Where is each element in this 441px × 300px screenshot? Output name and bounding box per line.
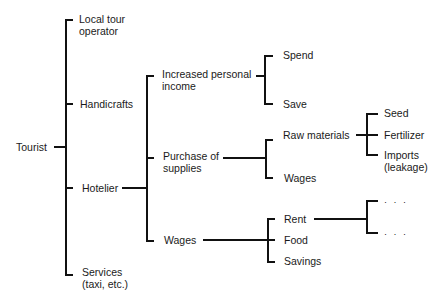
label-line: Increased personal <box>162 68 251 80</box>
label-line: Purchase of <box>163 150 219 162</box>
node-increased-personal-income: Increased personal income <box>162 68 251 92</box>
label-line: Imports <box>384 149 428 161</box>
label-line: income <box>162 80 251 92</box>
node-services: Services (taxi, etc.) <box>82 266 128 290</box>
node-wages-supplies: Wages <box>284 172 316 184</box>
node-raw-materials: Raw materials <box>283 129 350 141</box>
node-wages-hotel: Wages <box>164 234 196 246</box>
node-handicrafts: Handicrafts <box>80 98 133 110</box>
node-hotelier: Hotelier <box>82 182 118 194</box>
node-save: Save <box>283 98 307 110</box>
label-line: operator <box>79 25 125 37</box>
node-tourist: Tourist <box>16 141 47 153</box>
node-imports-leakage: Imports (leakage) <box>384 149 428 173</box>
node-fertilizer: Fertilizer <box>384 129 424 141</box>
node-purchase-of-supplies: Purchase of supplies <box>163 150 219 174</box>
label-line: Services <box>82 266 128 278</box>
node-spend: Spend <box>283 49 313 61</box>
label-line: (leakage) <box>384 161 428 173</box>
node-ellipsis-2: · · · <box>384 228 408 240</box>
node-seed: Seed <box>384 107 409 119</box>
node-food: Food <box>284 234 308 246</box>
node-ellipsis-1: · · · <box>384 196 408 208</box>
label-line: (taxi, etc.) <box>82 278 128 290</box>
node-savings: Savings <box>284 255 321 267</box>
node-rent: Rent <box>284 213 306 225</box>
tree-connectors <box>0 0 441 300</box>
label-line: supplies <box>163 162 219 174</box>
label-line: Local tour <box>79 13 125 25</box>
node-local-tour-operator: Local tour operator <box>79 13 125 37</box>
